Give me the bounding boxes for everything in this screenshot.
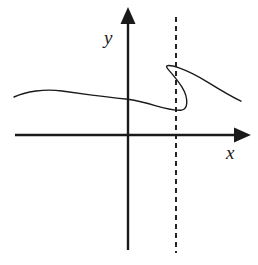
y-axis-label: y [102, 27, 113, 48]
x-axis-label: x [225, 142, 235, 163]
figure-canvas: y x [0, 0, 258, 265]
coordinate-plane-figure: y x [0, 0, 258, 265]
